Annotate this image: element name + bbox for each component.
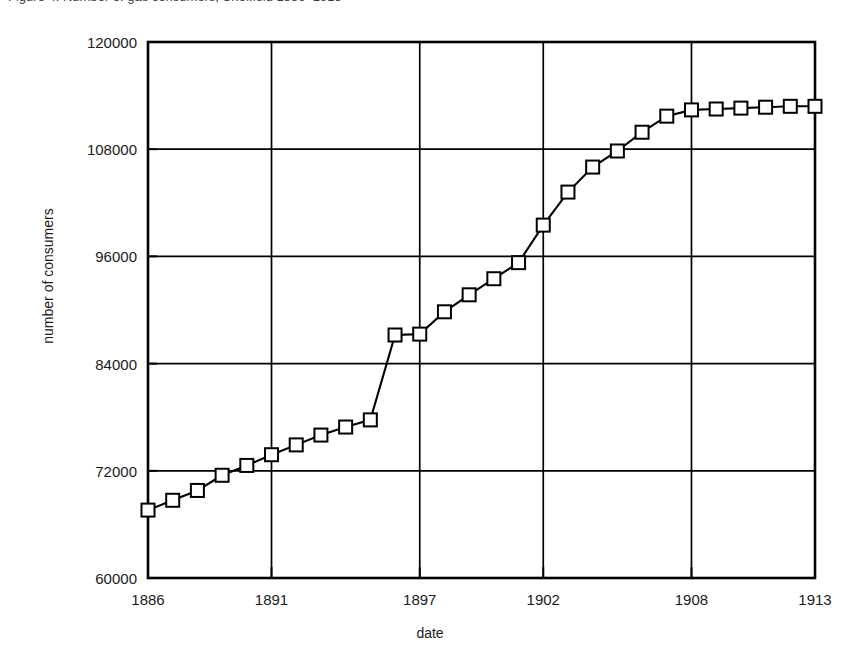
data-point-marker: [240, 459, 253, 472]
data-point-marker: [487, 272, 500, 285]
x-tick-labels-group: 188618911897190219081913: [131, 591, 831, 608]
data-point-marker: [734, 102, 747, 115]
data-point-marker: [759, 101, 772, 114]
data-point-marker: [290, 438, 303, 451]
data-point-marker: [413, 328, 426, 341]
data-point-marker: [438, 305, 451, 318]
plot-frame: [148, 42, 815, 578]
data-point-marker: [636, 126, 649, 139]
y-tick-label: 96000: [95, 248, 137, 265]
y-tick-label: 84000: [95, 356, 137, 373]
data-point-marker: [660, 110, 673, 123]
data-point-marker: [710, 103, 723, 116]
data-point-marker: [611, 144, 624, 157]
y-tick-label: 120000: [87, 34, 137, 51]
chart-figure: number of consumers date 600007200084000…: [0, 0, 860, 665]
y-tick-label: 72000: [95, 463, 137, 480]
data-point-marker: [216, 469, 229, 482]
series-markers-group: [142, 100, 822, 517]
data-point-marker: [339, 421, 352, 434]
x-tick-label: 1913: [798, 591, 831, 608]
data-point-marker: [561, 186, 574, 199]
chart-plot-area: 60000720008400096000108000120000 1886189…: [0, 0, 860, 665]
x-tick-label: 1886: [131, 591, 164, 608]
data-point-marker: [463, 288, 476, 301]
data-point-marker: [784, 100, 797, 113]
tick-marks-group: [148, 42, 815, 578]
data-point-marker: [512, 256, 525, 269]
data-point-marker: [389, 329, 402, 342]
data-point-marker: [537, 219, 550, 232]
y-tick-label: 60000: [95, 570, 137, 587]
series-line-consumers: [148, 106, 815, 510]
x-tick-label: 1891: [255, 591, 288, 608]
y-tick-labels-group: 60000720008400096000108000120000: [87, 34, 137, 587]
y-tick-label: 108000: [87, 141, 137, 158]
gridlines-group: [148, 42, 815, 578]
data-point-marker: [586, 161, 599, 174]
data-point-marker: [191, 484, 204, 497]
data-point-marker: [265, 448, 278, 461]
data-point-marker: [685, 103, 698, 116]
data-point-marker: [142, 504, 155, 517]
data-point-marker: [364, 413, 377, 426]
x-tick-label: 1908: [675, 591, 708, 608]
data-point-marker: [809, 100, 822, 113]
x-tick-label: 1897: [403, 591, 436, 608]
data-point-marker: [166, 494, 179, 507]
x-tick-label: 1902: [527, 591, 560, 608]
data-point-marker: [314, 429, 327, 442]
